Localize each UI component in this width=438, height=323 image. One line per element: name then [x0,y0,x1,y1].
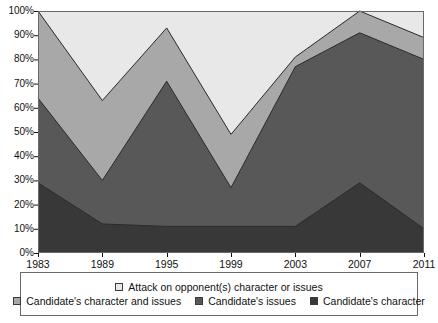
legend-swatch-attack-on-opponent [115,283,123,291]
x-axis-tick-label: 2011 [413,258,436,270]
stacked-area-chart: 100%90%80%70%60%50%40%30%20%10%0% 198319… [0,0,438,323]
legend-item-label: Candidate's character [323,296,425,307]
legend-item-label: Candidate's issues [208,296,296,307]
legend-swatch-candidates-character-and-issues [13,297,21,305]
x-axis-tick-label: 1995 [155,258,178,270]
legend-item-label: Candidate's character and issues [26,296,181,307]
legend-row-secondary: Candidate's character and issuesCandidat… [21,296,417,307]
legend-item[interactable]: Candidate's character and issues [13,296,181,307]
legend-item[interactable]: Candidate's issues [195,296,296,307]
x-axis-tick-label: 2007 [348,258,371,270]
chart-legend: Attack on opponent(s) character or issue… [20,272,418,316]
x-axis-tick-label: 1999 [219,258,242,270]
x-axis-tick-label: 1989 [91,258,114,270]
legend-item-label: Attack on opponent(s) character or issue… [128,282,322,293]
legend-item[interactable]: Candidate's character [310,296,425,307]
x-axis-tick-label: 1983 [26,258,49,270]
x-axis-tick-label: 2003 [284,258,307,270]
legend-row-primary: Attack on opponent(s) character or issue… [21,282,417,293]
legend-swatch-candidates-issues [195,297,203,305]
legend-item[interactable]: Attack on opponent(s) character or issue… [115,282,322,293]
x-axis: 1983198919951999200320072011 [0,256,438,272]
legend-swatch-candidates-character [310,297,318,305]
